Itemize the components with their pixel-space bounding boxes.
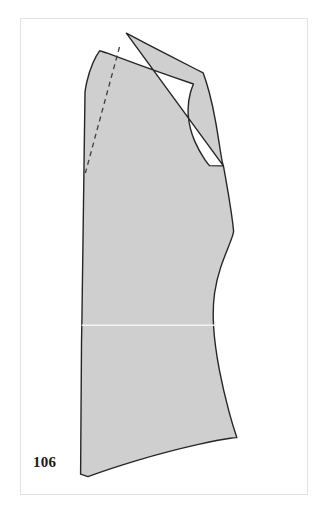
pattern-figure xyxy=(0,0,330,513)
pattern-piece-outline xyxy=(81,33,237,476)
page-canvas: 106 xyxy=(0,0,330,513)
plate-number-label: 106 xyxy=(33,455,56,470)
